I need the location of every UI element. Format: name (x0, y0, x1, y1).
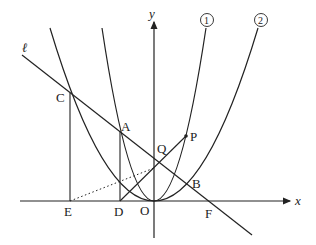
point-P-label: P (190, 129, 197, 144)
y-axis-label: y (147, 6, 155, 21)
point-F-label: F (205, 206, 212, 221)
line-l-label: ℓ (22, 40, 28, 55)
point-E-label: E (64, 204, 72, 219)
x-axis-label: x (294, 193, 301, 208)
point-Q-label: Q (157, 141, 167, 156)
point-P-dot (184, 134, 188, 138)
curve-2-label: 2 (258, 15, 263, 26)
point-A-label: A (121, 119, 131, 134)
diagram-canvas: y x O 1 2 ℓ C A Q P B E D F (0, 0, 316, 245)
point-D-label: D (114, 204, 123, 219)
point-C-label: C (56, 90, 65, 105)
curve-1-label: 1 (204, 15, 209, 26)
line-l (22, 55, 252, 235)
point-B-label: B (192, 176, 201, 191)
origin-label: O (140, 203, 149, 218)
